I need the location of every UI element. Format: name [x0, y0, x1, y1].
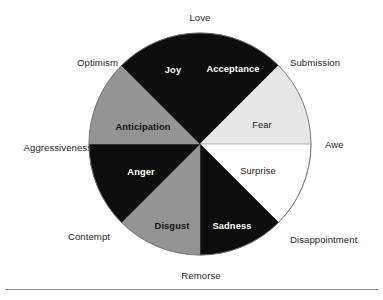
outer-label-contempt: Contempt: [68, 231, 110, 242]
wheel-sectors: [89, 33, 311, 255]
outer-label-aggressiveness: Aggressiveness: [24, 142, 93, 153]
outer-label-optimism: Optimism: [77, 57, 118, 68]
plutchik-wheel-svg: AcceptanceFearSurpriseSadnessDisgustAnge…: [0, 0, 383, 300]
outer-label-submission: Submission: [290, 57, 340, 68]
sector-label-disgust: Disgust: [155, 221, 190, 231]
emotion-wheel-figure: AcceptanceFearSurpriseSadnessDisgustAnge…: [0, 0, 383, 300]
footer-divider: [5, 289, 378, 290]
sector-label-acceptance: Acceptance: [206, 64, 259, 74]
sector-label-anticipation: Anticipation: [116, 122, 171, 132]
outer-label-awe: Awe: [325, 139, 344, 150]
outer-label-remorse: Remorse: [181, 270, 220, 281]
sector-label-fear: Fear: [252, 120, 272, 130]
outer-label-love: Love: [189, 12, 210, 23]
sector-label-surprise: Surprise: [240, 166, 275, 176]
outer-label-disappointment: Disappointment: [290, 234, 358, 245]
sector-label-anger: Anger: [127, 167, 155, 177]
sector-label-sadness: Sadness: [213, 221, 252, 231]
sector-label-joy: Joy: [165, 65, 182, 75]
